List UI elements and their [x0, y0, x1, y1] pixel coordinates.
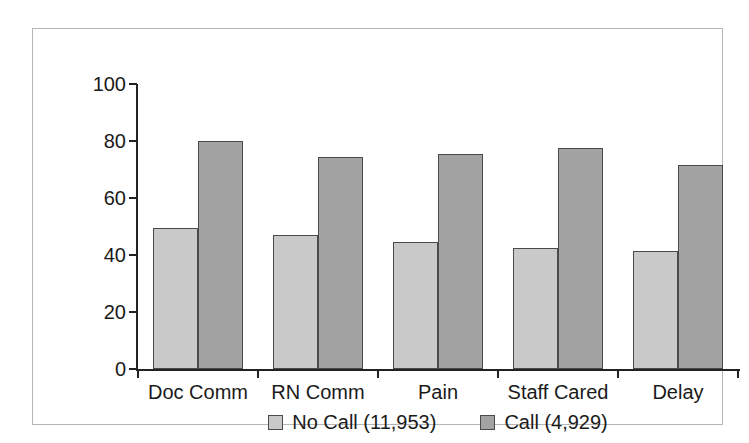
x-axis-category-label: Pain: [378, 382, 498, 402]
figure-frame: 020406080100 Doc CommRN CommPainStaff Ca…: [32, 28, 723, 425]
y-axis-tick: [129, 83, 137, 85]
bar: [633, 251, 678, 369]
y-axis-tick-label: 100: [93, 74, 126, 94]
x-axis-category-label: Delay: [618, 382, 738, 402]
x-axis-category-label: RN Comm: [258, 382, 378, 402]
y-axis-tick-label: 20: [104, 302, 126, 322]
bar: [198, 141, 243, 369]
y-axis-tick: [129, 311, 137, 313]
bar: [513, 248, 558, 369]
legend-swatch-icon: [268, 415, 283, 430]
bar: [438, 154, 483, 369]
legend-label: No Call (11,953): [292, 412, 436, 432]
bar: [153, 228, 198, 369]
bar: [558, 148, 603, 369]
y-axis-tick: [129, 140, 137, 142]
x-axis-tick: [137, 369, 139, 378]
y-axis-tick-label: 0: [115, 359, 126, 379]
y-axis-tick-label: 80: [104, 131, 126, 151]
y-axis-line: [136, 84, 138, 370]
x-axis-tick: [737, 369, 739, 378]
bar-chart-figure: 020406080100 Doc CommRN CommPainStaff Ca…: [0, 0, 749, 443]
legend-label: Call (4,929): [504, 412, 607, 432]
y-axis-tick: [129, 368, 137, 370]
y-axis-tick-label: 60: [104, 188, 126, 208]
x-axis-category-label: Doc Comm: [138, 382, 258, 402]
x-axis-tick: [377, 369, 379, 378]
legend-swatch-icon: [480, 415, 495, 430]
x-axis-tick: [497, 369, 499, 378]
x-axis-category-label: Staff Cared: [498, 382, 618, 402]
legend-item: Call (4,929): [480, 412, 607, 432]
plot-area: 020406080100 Doc CommRN CommPainStaff Ca…: [138, 84, 738, 369]
bar: [393, 242, 438, 369]
y-axis-tick: [129, 254, 137, 256]
bar: [318, 157, 363, 369]
bar: [678, 165, 723, 369]
y-axis-tick: [129, 197, 137, 199]
x-axis-tick: [617, 369, 619, 378]
chart-legend: No Call (11,953)Call (4,929): [138, 412, 738, 432]
x-axis-line: [136, 369, 740, 371]
legend-item: No Call (11,953): [268, 412, 436, 432]
x-axis-tick: [257, 369, 259, 378]
bar: [273, 235, 318, 369]
y-axis-tick-label: 40: [104, 245, 126, 265]
